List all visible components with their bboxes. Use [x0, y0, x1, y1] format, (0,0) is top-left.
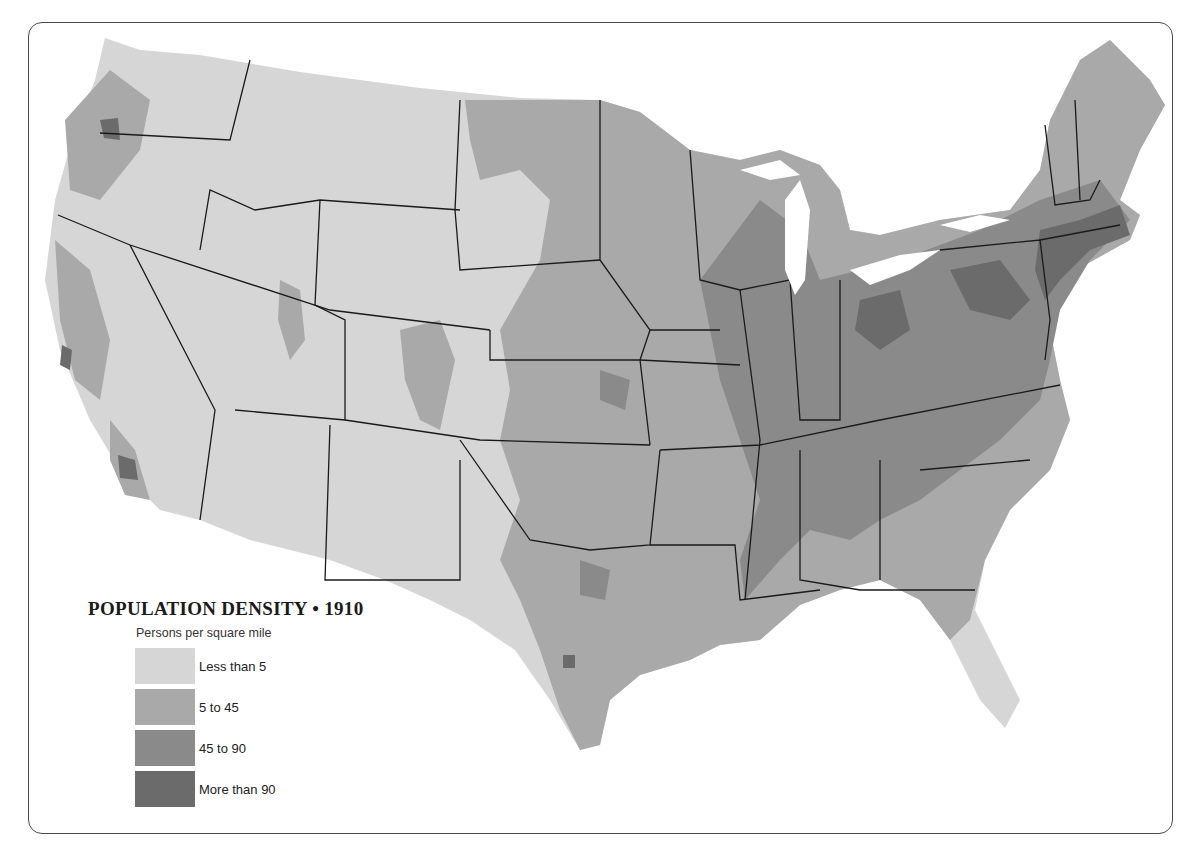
legend-item-less-than-5: Less than 5 — [135, 648, 363, 684]
legend-item-5-to-45: 5 to 45 — [135, 689, 363, 725]
legend-item-more-than-90: More than 90 — [135, 771, 363, 807]
legend-label: Less than 5 — [199, 659, 266, 674]
legend-label: 5 to 45 — [199, 700, 239, 715]
legend-item-45-to-90: 45 to 90 — [135, 730, 363, 766]
legend-subtitle: Persons per square mile — [136, 626, 363, 640]
legend-swatch — [135, 730, 195, 766]
legend-swatch — [135, 648, 195, 684]
map-title: POPULATION DENSITY • 1910 — [88, 598, 363, 620]
legend-swatch — [135, 771, 195, 807]
legend: POPULATION DENSITY • 1910 Persons per sq… — [88, 598, 363, 812]
legend-label: More than 90 — [199, 782, 276, 797]
legend-label: 45 to 90 — [199, 741, 246, 756]
legend-swatch — [135, 689, 195, 725]
